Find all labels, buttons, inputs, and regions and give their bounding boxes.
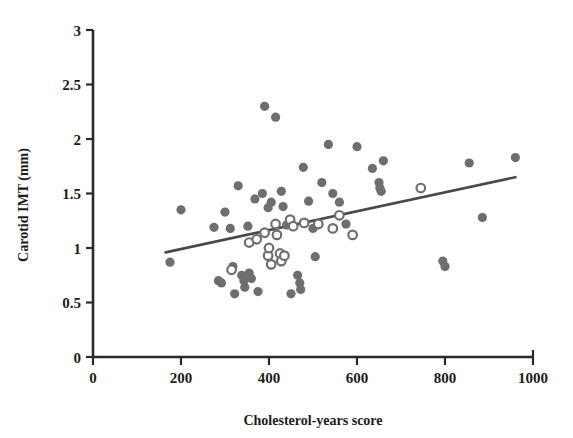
data-point-filled: [230, 289, 239, 298]
data-point-filled: [341, 219, 350, 228]
data-point-filled: [217, 278, 226, 287]
data-point-filled: [209, 223, 218, 232]
data-point-filled: [335, 198, 344, 207]
x-tick-label: 200: [170, 370, 193, 386]
x-tick-label: 600: [346, 370, 369, 386]
data-point-filled: [377, 187, 386, 196]
data-point-open: [335, 211, 344, 220]
data-point-filled: [277, 187, 286, 196]
y-tick-label: 0: [74, 350, 82, 366]
y-tick-label: 0.5: [62, 295, 81, 311]
x-tick-labels: 02004006008001000: [89, 370, 548, 386]
data-point-filled: [278, 202, 287, 211]
x-tick-label: 0: [89, 370, 97, 386]
data-point-filled: [176, 205, 185, 214]
chart-figure: 00.511.522.53 02004006008001000 Choleste…: [0, 0, 573, 438]
y-axis-title: Carotid IMT (mm): [16, 148, 32, 262]
data-point-open: [417, 184, 426, 193]
x-tick-label: 1000: [518, 370, 548, 386]
data-point-filled: [311, 252, 320, 261]
data-point-filled: [267, 198, 276, 207]
data-point-filled: [250, 194, 259, 203]
data-point-open: [227, 266, 236, 275]
data-point-open: [271, 220, 280, 229]
data-point-filled: [271, 113, 280, 122]
axes: [93, 30, 533, 357]
data-point-filled: [296, 285, 305, 294]
scatter-plot: 00.511.522.53 02004006008001000 Choleste…: [0, 0, 573, 438]
data-point-filled: [286, 289, 295, 298]
data-point-filled: [379, 156, 388, 165]
data-point-filled: [260, 102, 269, 111]
data-point-open: [260, 228, 269, 237]
data-point-open: [280, 251, 289, 260]
y-tick-label: 1.5: [62, 186, 81, 202]
x-axis-title: Cholesterol-years score: [243, 413, 382, 428]
data-point-filled: [440, 262, 449, 271]
data-point-filled: [243, 222, 252, 231]
data-point-filled: [465, 158, 474, 167]
data-points-filled: [165, 102, 520, 299]
y-tick-labels: 00.511.522.53: [62, 23, 81, 366]
data-point-open: [348, 231, 357, 240]
data-point-filled: [165, 258, 174, 267]
data-point-open: [329, 224, 338, 233]
data-point-open: [267, 260, 276, 269]
y-tick-label: 1: [74, 241, 82, 257]
data-point-filled: [317, 178, 326, 187]
data-point-filled: [304, 197, 313, 206]
data-point-filled: [247, 274, 256, 283]
data-point-filled: [226, 224, 235, 233]
data-point-open: [289, 222, 298, 231]
data-point-filled: [324, 140, 333, 149]
data-point-filled: [220, 207, 229, 216]
x-tick-label: 800: [434, 370, 457, 386]
data-point-filled: [258, 189, 267, 198]
data-point-filled: [368, 164, 377, 173]
data-point-filled: [240, 283, 249, 292]
data-point-open: [273, 231, 282, 240]
data-point-open: [300, 219, 309, 228]
data-point-filled: [253, 287, 262, 296]
data-point-open: [252, 235, 261, 244]
data-point-filled: [234, 181, 243, 190]
y-tick-label: 3: [74, 23, 82, 39]
data-point-filled: [328, 189, 337, 198]
y-tick-label: 2.5: [62, 77, 81, 93]
data-point-filled: [299, 163, 308, 172]
x-tick-label: 400: [258, 370, 281, 386]
data-point-filled: [352, 142, 361, 151]
data-point-open: [314, 220, 323, 229]
y-tick-label: 2: [74, 132, 82, 148]
data-point-open: [265, 244, 274, 253]
data-point-filled: [478, 213, 487, 222]
data-point-filled: [511, 153, 520, 162]
